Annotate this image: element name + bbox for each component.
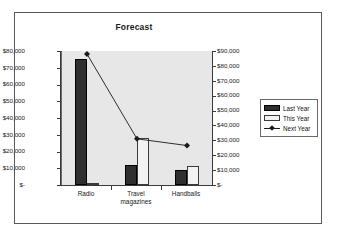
primary-y-axis-tick-0 <box>57 185 60 186</box>
chart-frame[interactable]: Forecast $-$10,000$20,000$30,000$40,000$… <box>14 12 322 224</box>
secondary-y-axis-tick-label-6: $60,000 <box>217 92 239 98</box>
next-year-marker-0[interactable] <box>84 51 90 57</box>
primary-y-axis-tick-8 <box>57 51 60 52</box>
next-year-line-series <box>62 51 212 185</box>
secondary-y-axis-tick-6 <box>213 96 216 97</box>
legend-item-this-year[interactable]: This Year <box>261 113 317 123</box>
primary-y-axis-tick-4 <box>57 118 60 119</box>
legend-label-this-year: This Year <box>283 115 309 122</box>
secondary-y-axis-tick-1 <box>213 170 216 171</box>
secondary-y-axis-tick-label-7: $70,000 <box>217 78 239 84</box>
next-year-marker-2[interactable] <box>184 143 190 149</box>
secondary-y-axis-tick-3 <box>213 140 216 141</box>
x-axis-category-separator-2 <box>161 186 162 190</box>
secondary-y-axis-tick-label-2: $20,000 <box>217 152 239 158</box>
legend-label-last-year: Last Year <box>283 105 309 112</box>
chart-title: Forecast <box>15 22 253 32</box>
next-year-marker-1[interactable] <box>134 136 140 142</box>
primary-y-axis-tick-label-1: $10,000 <box>3 165 25 171</box>
secondary-y-axis-tick-label-8: $80,000 <box>217 63 239 69</box>
secondary-y-axis-tick-label-4: $40,000 <box>217 122 239 128</box>
secondary-y-axis-tick-0 <box>213 185 216 186</box>
primary-y-axis-tick-label-2: $20,000 <box>3 148 25 154</box>
x-axis-category-label-0: Radio <box>58 190 114 198</box>
chart-legend[interactable]: Last Year This Year Next Year <box>260 99 318 137</box>
legend-swatch-last-year <box>264 105 280 111</box>
secondary-y-axis-tick-label-1: $10,000 <box>217 167 239 173</box>
primary-y-axis-tick-6 <box>57 85 60 86</box>
legend-item-next-year[interactable]: Next Year <box>261 123 317 133</box>
secondary-y-axis-tick-label-5: $50,000 <box>217 107 239 113</box>
secondary-y-axis-tick-8 <box>213 66 216 67</box>
primary-y-axis-tick-label-4: $40,000 <box>3 115 25 121</box>
legend-swatch-this-year <box>264 115 280 121</box>
primary-y-axis-tick-1 <box>57 168 60 169</box>
x-axis-category-separator-1 <box>111 186 112 190</box>
secondary-y-axis-tick-7 <box>213 81 216 82</box>
secondary-y-axis-tick-5 <box>213 111 216 112</box>
primary-y-axis-tick-3 <box>57 135 60 136</box>
secondary-y-axis-line <box>212 51 213 186</box>
primary-y-axis-tick-label-8: $80,000 <box>3 48 25 54</box>
primary-y-axis-tick-label-5: $50,000 <box>3 98 25 104</box>
x-axis-line <box>60 185 213 186</box>
x-axis-category-label-1: Travel magazines <box>108 190 164 205</box>
primary-y-axis-tick-label-3: $30,000 <box>3 132 25 138</box>
legend-item-last-year[interactable]: Last Year <box>261 103 317 113</box>
primary-y-axis-tick-5 <box>57 101 60 102</box>
secondary-y-axis-tick-2 <box>213 155 216 156</box>
primary-y-axis-line <box>60 51 61 186</box>
plot-area[interactable] <box>61 51 213 185</box>
secondary-y-axis-tick-4 <box>213 125 216 126</box>
primary-y-axis-tick-2 <box>57 152 60 153</box>
primary-y-axis-tick-label-7: $70,000 <box>3 65 25 71</box>
secondary-y-axis-tick-9 <box>213 51 216 52</box>
secondary-y-axis-tick-label-3: $30,000 <box>217 137 239 143</box>
primary-y-axis-tick-7 <box>57 68 60 69</box>
secondary-y-axis-tick-label-9: $90,000 <box>217 48 239 54</box>
secondary-y-axis-tick-label-0: $- <box>217 182 223 188</box>
primary-y-axis-tick-label-0: $- <box>19 182 25 188</box>
primary-y-axis-tick-label-6: $60,000 <box>3 81 25 87</box>
x-axis-category-label-2: Handballs <box>158 190 214 198</box>
next-year-line <box>87 54 187 146</box>
legend-label-next-year: Next Year <box>283 125 310 132</box>
legend-marker-next-year <box>264 125 280 131</box>
